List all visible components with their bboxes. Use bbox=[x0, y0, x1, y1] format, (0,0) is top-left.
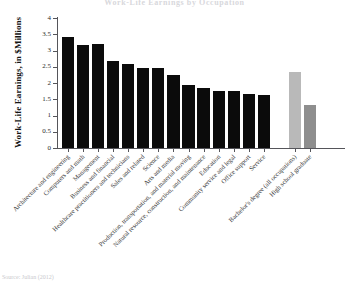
bar[interactable] bbox=[92, 44, 104, 148]
bar[interactable] bbox=[137, 68, 149, 148]
y-axis-tick-label: 2 bbox=[37, 80, 51, 87]
x-axis-tick bbox=[158, 148, 159, 152]
bar[interactable] bbox=[107, 61, 119, 148]
y-axis-tick-label: 3 bbox=[37, 47, 51, 54]
bar[interactable] bbox=[213, 91, 225, 148]
y-axis-tick-label: 2.5 bbox=[37, 63, 51, 70]
y-axis-tick bbox=[53, 67, 57, 68]
x-axis-tick bbox=[234, 148, 235, 152]
y-axis-tick bbox=[53, 99, 57, 100]
x-axis-tick bbox=[249, 148, 250, 152]
x-axis-tick bbox=[143, 148, 144, 152]
y-axis-tick bbox=[53, 148, 57, 149]
bar[interactable] bbox=[228, 91, 240, 148]
bar[interactable] bbox=[62, 37, 74, 148]
y-axis-tick bbox=[53, 116, 57, 117]
x-axis-tick bbox=[173, 148, 174, 152]
x-axis-tick bbox=[68, 148, 69, 152]
x-axis-tick bbox=[310, 148, 311, 152]
bar[interactable] bbox=[197, 88, 209, 148]
x-axis-tick bbox=[83, 148, 84, 152]
y-axis-tick bbox=[53, 18, 57, 19]
x-axis-tick bbox=[295, 148, 296, 152]
bar[interactable] bbox=[304, 105, 316, 148]
y-axis-tick-label: 4 bbox=[37, 15, 51, 22]
x-axis-tick bbox=[204, 148, 205, 152]
source-note: Source: Julian (2012) bbox=[2, 274, 54, 280]
x-axis-line bbox=[57, 148, 345, 149]
chart-title: Work-Life Earnings by Occupation bbox=[0, 0, 349, 7]
x-axis-tick bbox=[219, 148, 220, 152]
bar[interactable] bbox=[77, 45, 89, 148]
y-axis-tick bbox=[53, 34, 57, 35]
y-axis-tick-label: 0 bbox=[37, 145, 51, 152]
bar[interactable] bbox=[258, 95, 270, 148]
bar[interactable] bbox=[122, 64, 134, 148]
bar[interactable] bbox=[182, 85, 194, 148]
y-axis-tick-label: 3.5 bbox=[37, 31, 51, 38]
x-axis-tick bbox=[128, 148, 129, 152]
y-axis-tick-label: 1.5 bbox=[37, 96, 51, 103]
x-axis-tick bbox=[264, 148, 265, 152]
bar[interactable] bbox=[152, 68, 164, 148]
y-axis-tick bbox=[53, 132, 57, 133]
y-axis-tick bbox=[53, 83, 57, 84]
bar[interactable] bbox=[167, 75, 179, 148]
y-axis-label: Work-Life Earnings, in $Millions bbox=[13, 17, 23, 148]
bar[interactable] bbox=[243, 94, 255, 148]
plot-area bbox=[57, 18, 344, 148]
x-axis-tick bbox=[113, 148, 114, 152]
x-axis-tick bbox=[189, 148, 190, 152]
y-axis-tick-label: 1 bbox=[37, 112, 51, 119]
x-axis-tick bbox=[98, 148, 99, 152]
y-axis-tick bbox=[53, 51, 57, 52]
bar[interactable] bbox=[289, 72, 301, 148]
y-axis-tick-label: 0.5 bbox=[37, 128, 51, 135]
